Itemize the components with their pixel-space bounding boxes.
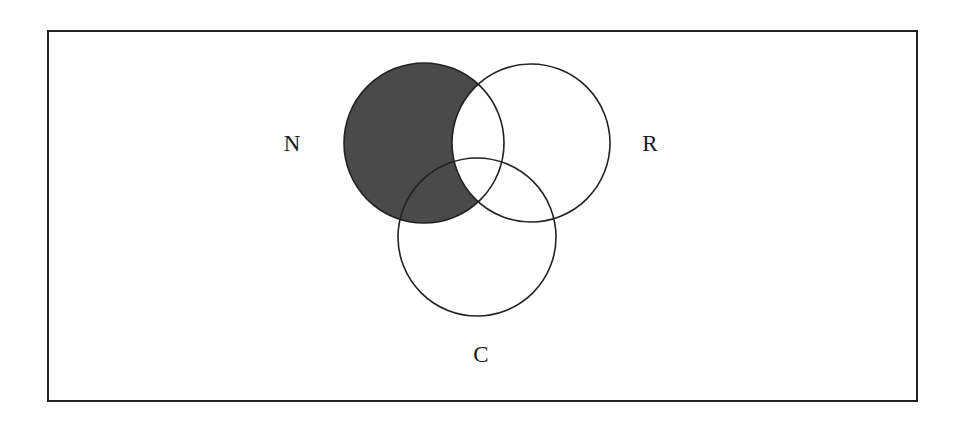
- set-label-r: R: [642, 131, 658, 156]
- set-label-c: C: [473, 342, 488, 367]
- venn-diagram: N R C: [0, 0, 961, 423]
- set-label-n: N: [284, 131, 301, 156]
- set-circle-c: [398, 158, 556, 316]
- set-circle-r: [452, 64, 610, 222]
- shaded-region-n-minus-r: [344, 63, 504, 223]
